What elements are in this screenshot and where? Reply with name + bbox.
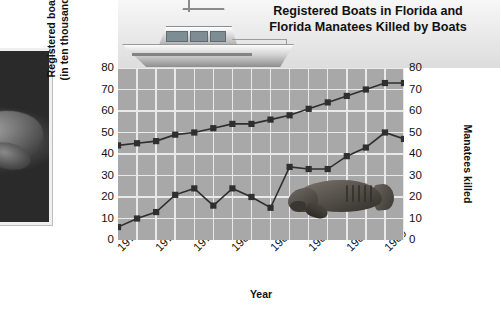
data-point-marker [401,80,404,86]
left-axis-tick-label: 0 [92,233,114,245]
right-axis-tick-label: 10 [409,212,431,224]
data-point-marker [210,125,216,131]
data-point-marker [118,224,121,230]
right-axis-tick-label: 30 [409,169,431,181]
data-point-marker [248,121,254,127]
right-axis-ticks: 01020304050607080 [409,68,431,240]
series-line-1 [118,83,404,145]
chart-title: Registered Boats in Florida and Florida … [242,4,494,35]
data-point-marker [172,192,178,198]
data-point-marker [306,106,312,112]
right-axis-tick-label: 80 [409,61,431,73]
left-axis-title-line1: Registered boats [45,0,58,94]
chart-title-line1: Registered Boats in Florida and [242,4,494,20]
boat-window [166,31,188,42]
x-axis-ticks: 19751977197919811983198519871989 [118,243,408,287]
data-point-marker [153,209,159,215]
data-point-marker [229,185,235,191]
left-axis-tick-label: 40 [92,147,114,159]
left-axis-tick-label: 70 [92,83,114,95]
left-axis-tick-label: 30 [92,169,114,181]
left-axis-tick-label: 50 [92,126,114,138]
right-axis-tick-label: 60 [409,104,431,116]
plot-area [118,68,404,240]
data-point-marker [382,129,388,135]
boat-hull-stripe [132,53,252,56]
data-point-marker [191,185,197,191]
data-point-marker [344,93,350,99]
left-axis-tick-label: 80 [92,61,114,73]
data-point-marker [191,129,197,135]
boat-mast [188,0,190,12]
data-point-marker [287,112,293,118]
left-axis-title: Registered boats (in ten thousands) [45,0,70,94]
data-point-marker [363,144,369,150]
left-axis-tick-label: 10 [92,212,114,224]
data-point-marker [267,117,273,123]
figure-root: Registered Boats in Florida and Florida … [0,0,501,309]
data-point-marker [134,215,140,221]
data-point-marker [325,99,331,105]
data-point-marker [210,203,216,209]
right-axis-tick-label: 20 [409,190,431,202]
boat-window [210,31,226,42]
boat-window [190,31,208,42]
data-point-marker [134,140,140,146]
right-axis-tick-label: 40 [409,147,431,159]
left-axis-tick-label: 60 [92,104,114,116]
data-point-marker [325,166,331,172]
left-axis-tick-label: 20 [92,190,114,202]
data-point-marker [172,132,178,138]
data-point-marker [363,86,369,92]
right-axis-tick-label: 0 [409,233,431,245]
data-point-marker [306,166,312,172]
right-axis-title: Manatees killed [462,104,474,224]
data-point-marker [267,205,273,211]
data-point-marker [382,80,388,86]
chart-title-banner: Registered Boats in Florida and Florida … [118,0,500,68]
data-point-marker [118,142,121,148]
data-point-marker [229,121,235,127]
right-axis-tick-label: 50 [409,126,431,138]
data-series-layer [118,68,404,240]
data-point-marker [344,153,350,159]
boat-tower [174,8,232,29]
series-line-2 [118,133,404,228]
data-point-marker [153,138,159,144]
manatee-photo-image [0,51,49,222]
chart-title-line2: Florida Manatees Killed by Boats [242,20,494,36]
x-axis-title: Year [118,288,404,300]
right-axis-tick-label: 70 [409,83,431,95]
data-point-marker [401,136,404,142]
left-axis-title-line2: (in ten thousands) [58,0,71,94]
data-point-marker [248,194,254,200]
data-point-marker [287,164,293,170]
left-axis-ticks: 01020304050607080 [92,68,114,240]
